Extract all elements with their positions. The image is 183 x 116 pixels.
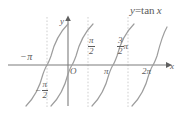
equation-label: y=tan x	[130, 5, 162, 16]
pi-symbol: π	[27, 51, 32, 62]
pi-symbol: π	[124, 42, 129, 51]
tick-label-pi: π	[104, 67, 109, 76]
equation-function: tan	[141, 4, 154, 16]
minus-sign: −	[20, 51, 27, 62]
origin-label: O	[70, 67, 77, 76]
fraction-denominator: 2	[42, 91, 49, 100]
y-axis-arrowhead	[65, 16, 71, 22]
fraction-denominator: 2	[88, 47, 95, 56]
minus-sign: −	[35, 86, 41, 95]
y-axis	[65, 16, 71, 107]
pi-symbol: π	[147, 66, 152, 76]
fraction: π 2	[42, 80, 49, 100]
tangent-function-figure: y=tan x y x O −π − π 2 π 2 π 3 2 π 2π	[0, 0, 183, 116]
equation-argument: x	[157, 4, 162, 16]
fraction-numerator: π	[42, 80, 49, 89]
tick-label-two-pi: 2π	[142, 67, 151, 76]
tick-label-neg-pi: −π	[20, 52, 32, 62]
tick-label-pi-over-2: π 2	[88, 36, 95, 56]
tick-label-three-pi-over-2: 3 2 π	[117, 36, 128, 56]
x-axis-label: x	[170, 62, 174, 71]
tick-label-neg-pi-over-2: − π 2	[35, 80, 48, 100]
fraction-numerator: π	[88, 36, 95, 45]
fraction: π 2	[88, 36, 95, 56]
y-axis-label: y	[60, 17, 64, 26]
